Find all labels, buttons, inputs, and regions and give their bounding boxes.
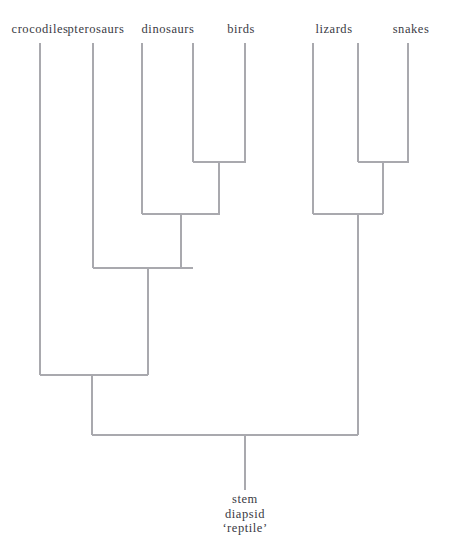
cladogram-figure: crocodiles pterosaurs dinosaurs birds li… [0, 0, 449, 541]
cladogram-tree-graphic [0, 0, 449, 541]
root-label-line-2: diapsid [222, 507, 267, 522]
tip-label-pterosaurs: pterosaurs [68, 22, 125, 36]
tip-label-dinosaurs: dinosaurs [142, 22, 195, 36]
root-label-line-3: ‘reptile’ [222, 521, 267, 536]
tip-label-snakes: snakes [393, 22, 430, 36]
root-label-line-1: stem [222, 492, 267, 507]
tip-label-crocodiles: crocodiles [12, 22, 69, 36]
tip-label-lizards: lizards [315, 22, 352, 36]
root-label-stem-diapsid-reptile: stem diapsid ‘reptile’ [222, 492, 267, 536]
tip-label-birds: birds [227, 22, 255, 36]
